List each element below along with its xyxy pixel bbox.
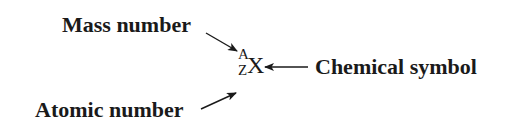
arrows-layer: [0, 0, 521, 130]
mass-number-arrow-icon: [206, 33, 237, 51]
atomic-number-arrow-icon: [201, 93, 236, 109]
